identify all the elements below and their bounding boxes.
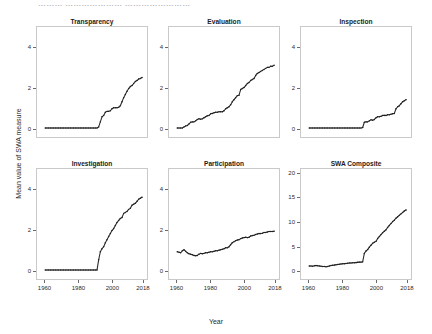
data-line <box>45 197 142 270</box>
data-point <box>369 246 370 247</box>
data-point <box>387 227 388 228</box>
data-point <box>213 251 214 252</box>
data-point <box>108 236 109 237</box>
data-point <box>46 127 47 128</box>
data-point <box>91 127 92 128</box>
data-point <box>223 110 224 111</box>
data-point <box>70 127 71 128</box>
data-point <box>233 241 234 242</box>
data-point <box>352 127 353 128</box>
x-tick-label: 1960 <box>38 285 51 291</box>
data-point <box>367 121 368 122</box>
data-point <box>198 253 199 254</box>
y-tick-label: 4 <box>151 186 163 192</box>
data-point <box>253 234 254 235</box>
y-tick-mark <box>165 47 168 48</box>
data-point <box>202 118 203 119</box>
plot-area <box>300 26 412 138</box>
data-point <box>329 127 330 128</box>
data-point <box>207 115 208 116</box>
data-point <box>389 114 390 115</box>
data-point <box>390 223 391 224</box>
data-point <box>208 115 209 116</box>
data-point <box>205 116 206 117</box>
data-point <box>397 216 398 217</box>
data-point <box>329 265 330 266</box>
data-point <box>225 108 226 109</box>
data-point <box>218 249 219 250</box>
data-point <box>68 269 69 270</box>
data-point <box>399 105 400 106</box>
x-tick-mark <box>342 280 343 283</box>
data-point <box>185 125 186 126</box>
data-point <box>125 212 126 213</box>
data-point <box>262 70 263 71</box>
data-point <box>125 94 126 95</box>
data-point <box>364 122 365 123</box>
data-point <box>382 115 383 116</box>
data-point <box>183 126 184 127</box>
data-point <box>98 126 99 127</box>
data-point <box>402 101 403 102</box>
data-point <box>272 231 273 232</box>
data-point <box>135 203 136 204</box>
data-point <box>360 127 361 128</box>
x-tick-mark <box>210 280 211 283</box>
x-tick-mark <box>176 280 177 283</box>
data-point <box>81 127 82 128</box>
data-point <box>133 204 134 205</box>
data-point <box>253 78 254 79</box>
data-point <box>182 250 183 251</box>
data-point <box>188 123 189 124</box>
data-point <box>232 101 233 102</box>
data-point <box>242 237 243 238</box>
panel-title: Investigation <box>36 160 148 167</box>
data-point <box>377 116 378 117</box>
data-point <box>118 107 119 108</box>
data-point <box>375 117 376 118</box>
data-point <box>397 106 398 107</box>
data-point <box>78 127 79 128</box>
data-point <box>63 127 64 128</box>
x-tick-mark <box>78 280 79 283</box>
data-point <box>360 261 361 262</box>
data-point <box>198 118 199 119</box>
data-point <box>339 264 340 265</box>
data-point <box>359 127 360 128</box>
data-line <box>309 210 406 267</box>
data-point <box>75 127 76 128</box>
data-point <box>217 250 218 251</box>
x-tick-mark <box>407 280 408 283</box>
data-point <box>405 209 406 210</box>
data-point <box>314 127 315 128</box>
data-point <box>243 237 244 238</box>
data-point <box>330 127 331 128</box>
data-point <box>86 269 87 270</box>
data-point <box>217 111 218 112</box>
data-point <box>73 269 74 270</box>
data-point <box>263 69 264 70</box>
x-tick-label: 2018 <box>136 285 149 291</box>
y-tick-mark <box>33 230 36 231</box>
data-point <box>243 87 244 88</box>
data-point <box>195 120 196 121</box>
data-point <box>335 264 336 265</box>
data-point <box>347 127 348 128</box>
data-point <box>58 269 59 270</box>
data-point <box>310 265 311 266</box>
panel-title: Evaluation <box>168 18 280 25</box>
data-point <box>188 253 189 254</box>
data-point <box>113 228 114 229</box>
data-point <box>195 255 196 256</box>
data-point <box>218 111 219 112</box>
data-point <box>309 127 310 128</box>
data-point <box>250 80 251 81</box>
data-point <box>180 127 181 128</box>
data-point <box>66 269 67 270</box>
data-point <box>340 127 341 128</box>
data-point <box>387 114 388 115</box>
data-point <box>78 269 79 270</box>
data-point <box>402 212 403 213</box>
data-point <box>394 219 395 220</box>
data-point <box>317 265 318 266</box>
